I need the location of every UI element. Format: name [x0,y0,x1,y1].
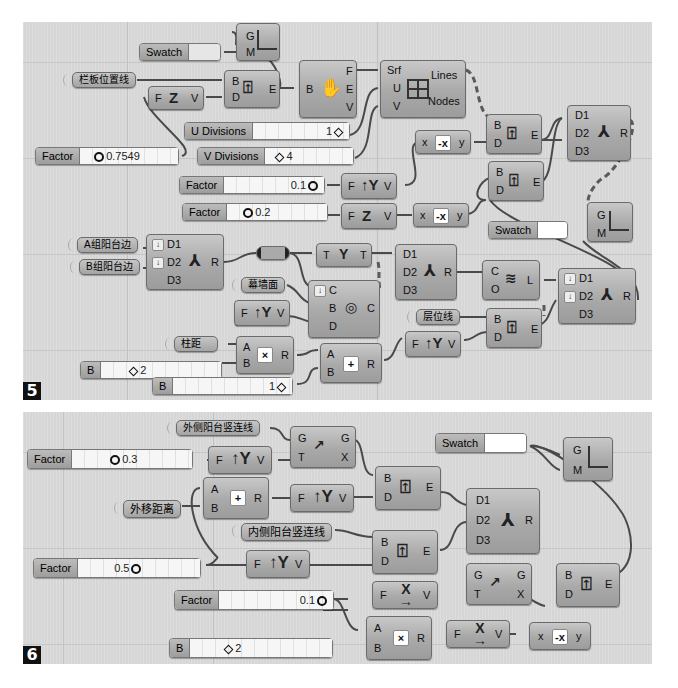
swatch-color[interactable] [485,434,526,452]
pin-d1[interactable]: D1 [476,494,490,506]
pin-d[interactable]: D [329,320,337,332]
pin-x[interactable]: X [341,451,348,463]
unit-x-vector-2[interactable]: F X→ V [446,620,510,648]
merge-top[interactable]: D1 D2 D3 ⅄ R [567,105,631,161]
pin-a[interactable]: A [374,622,381,634]
addition-node[interactable]: A B + R [320,343,382,383]
pin-r[interactable]: R [254,492,262,504]
pin-b[interactable]: B [211,502,218,514]
factor-slider-03[interactable]: Factor 0.3 [27,449,193,469]
pin-b[interactable]: B [243,357,250,369]
pin-d2[interactable]: D2 [403,266,417,278]
pin-g-out[interactable]: G [517,569,526,581]
param-floor-line[interactable]: 层位线 [416,309,460,325]
factor-slider-02[interactable]: Factor 0.2 [182,203,328,221]
pin-e[interactable]: E [533,176,540,188]
pin-d1[interactable]: D1 [167,238,181,250]
pin-e[interactable]: E [346,83,353,95]
pin-e[interactable]: E [269,83,276,95]
relay-node[interactable] [256,246,290,260]
swatch-top[interactable]: Swatch [139,43,221,61]
pin-f[interactable]: F [412,338,419,350]
pin-t[interactable]: T [360,249,367,261]
pin-b[interactable]: B [374,642,381,654]
multiply-node[interactable]: A B × R [366,616,432,660]
pin-lines[interactable]: Lines [431,69,457,81]
pin-m[interactable]: M [597,227,606,239]
unit-x-vector-1[interactable]: F X→ V [372,581,438,609]
pin-f[interactable]: F [346,65,353,77]
pin-d1[interactable]: D1 [403,248,417,260]
pin-r[interactable]: R [281,349,289,361]
pin-d2[interactable]: D2 [476,514,490,526]
pin-v[interactable]: V [423,589,430,601]
pin-f[interactable]: F [241,307,248,319]
negate-node[interactable]: x -x y [529,622,591,650]
pin-x[interactable]: x [422,136,428,148]
unit-z-vector-top[interactable]: F Z V [148,86,204,110]
pin-d3[interactable]: D3 [579,308,593,320]
param-group-a-balcony-edge[interactable]: A组阳台边 [77,237,138,253]
pin-d2[interactable]: D2 [579,290,593,302]
pin-b[interactable]: B [384,472,391,484]
factor-slider-07549[interactable]: Factor 0.7549 [35,147,179,165]
u-divisions-slider[interactable]: U Divisions 1 [184,122,350,140]
pin-a[interactable]: A [243,341,250,353]
pin-t[interactable]: T [323,249,330,261]
pin-v[interactable]: V [339,492,346,504]
pin-b[interactable]: B [565,569,572,581]
pin-v[interactable]: V [277,307,284,319]
pin-f[interactable]: F [254,558,261,570]
pin-c[interactable]: C [329,284,337,296]
evaluate-length-2[interactable]: B D ⍐ E [372,530,438,574]
custom-preview[interactable]: G M [563,437,613,481]
pin-t[interactable]: T [474,588,481,600]
pin-e[interactable]: E [531,323,538,335]
pin-e[interactable]: E [423,545,430,557]
pin-o[interactable]: O [491,283,500,295]
unit-y-vector-2[interactable]: F ↑Y V [290,484,354,512]
merge-right[interactable]: ↓ ↓ D1 D2 D3 ⅄ R [558,268,636,324]
pin-v[interactable]: V [295,558,302,570]
pin-e[interactable]: E [605,578,612,590]
pin-f[interactable]: F [298,492,305,504]
pin-l[interactable]: L [527,274,533,286]
factor-slider-01[interactable]: Factor 0.1 [174,590,334,610]
pin-y[interactable]: y [459,136,465,148]
move-2[interactable]: G T ↗ G X [466,563,532,605]
pin-g[interactable]: G [298,432,307,444]
pin-d[interactable]: D [565,588,573,600]
pin-x[interactable]: X [517,588,524,600]
pin-g[interactable]: G [474,569,483,581]
pin-d[interactable]: D [494,137,502,149]
pin-b[interactable]: B [381,536,388,548]
swatch-color[interactable] [189,44,220,60]
pin-r[interactable]: R [417,632,425,644]
pin-b[interactable]: B [494,313,501,325]
merge-node[interactable]: D1 D2 D3 ⅄ R [466,488,540,554]
pin-d1[interactable]: D1 [579,272,593,284]
pin-e[interactable]: E [531,129,538,141]
pin-g-out[interactable]: G [341,432,350,444]
pin-c-out[interactable]: C [367,302,375,314]
pin-a[interactable]: A [211,483,218,495]
pin-d3[interactable]: D3 [403,284,417,296]
pin-d2[interactable]: D2 [575,127,589,139]
pin-a[interactable]: A [327,348,334,360]
pin-y[interactable]: y [457,209,463,221]
pin-u[interactable]: U [393,82,401,94]
evaluate-length-top[interactable]: B D E ⍐ [224,70,280,108]
param-inner-balcony-line[interactable]: 内侧阳台竖连线 [241,523,332,541]
pin-x[interactable]: x [420,209,426,221]
pin-v[interactable]: V [393,100,400,112]
pin-v[interactable]: V [346,101,353,113]
evaluate-length-1[interactable]: B D ⍐ E [375,466,441,510]
evaluate-length-r1[interactable]: B D ⍐ E [486,114,542,154]
pin-v[interactable]: V [191,92,198,104]
pin-b[interactable]: B [494,119,501,131]
factor-slider-05[interactable]: Factor 0.5 [33,558,201,578]
pin-r[interactable]: R [620,127,628,139]
pin-d[interactable]: D [494,331,502,343]
custom-preview-mid[interactable]: G M [587,202,633,242]
unit-z-vector-2[interactable]: F Z V [341,203,397,229]
